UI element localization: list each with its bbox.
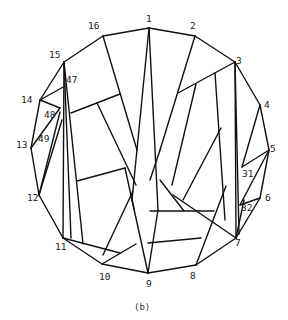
node-label-2: 2	[190, 20, 196, 31]
diagram-edge	[148, 265, 196, 273]
diagram-edge	[215, 73, 225, 220]
node-label-7: 7	[235, 237, 241, 248]
diagram-edge	[103, 36, 137, 150]
node-label-6: 6	[265, 192, 271, 203]
node-label-14: 14	[21, 94, 33, 105]
diagram-edge	[132, 200, 148, 273]
diagram-edge	[149, 28, 158, 210]
diagram-edge	[195, 36, 235, 62]
diagram-edges	[31, 28, 269, 273]
diagram-edge	[64, 36, 103, 62]
diagram-edge	[103, 191, 133, 255]
diagram-edge	[31, 148, 39, 195]
diagram-edge	[183, 128, 221, 200]
node-label-10: 10	[99, 271, 111, 282]
node-label-32: 32	[241, 202, 252, 213]
diagram-edge	[149, 28, 195, 36]
node-label-12: 12	[27, 192, 38, 203]
diagram-edge	[77, 168, 125, 181]
node-label-16: 16	[88, 20, 100, 31]
node-label-11: 11	[55, 241, 67, 252]
diagram-edge	[63, 62, 64, 238]
diagram-edge	[40, 62, 64, 100]
diagram-edge	[64, 62, 71, 238]
node-label-49: 49	[38, 133, 50, 144]
diagram-edge	[178, 62, 235, 93]
diagram-edge	[103, 28, 149, 36]
node-label-4: 4	[264, 99, 270, 110]
polygon-triangulation-diagram: 123456789101112131415164748493132 (b)	[0, 0, 288, 320]
node-label-3: 3	[236, 55, 242, 66]
node-label-48: 48	[44, 109, 56, 120]
diagram-edge	[173, 195, 236, 238]
diagram-edge	[63, 238, 120, 253]
node-label-9: 9	[146, 278, 152, 289]
node-label-5: 5	[270, 143, 276, 154]
diagram-edge	[39, 195, 63, 238]
node-label-8: 8	[190, 270, 196, 281]
diagram-edge	[235, 62, 260, 105]
diagram-edge	[132, 28, 149, 200]
diagram-edge	[148, 238, 201, 243]
diagram-edge	[71, 94, 120, 113]
diagram-edge	[40, 100, 60, 108]
diagram-edge	[196, 238, 236, 265]
figure-caption: (b)	[134, 302, 150, 312]
diagram-edge	[260, 105, 269, 150]
node-label-31: 31	[242, 168, 254, 179]
diagram-edge	[64, 62, 83, 244]
node-label-15: 15	[49, 49, 60, 60]
diagram-edge	[97, 103, 136, 185]
node-label-1: 1	[146, 13, 152, 24]
diagram-edge	[196, 186, 226, 265]
node-label-47: 47	[66, 74, 77, 85]
node-label-13: 13	[16, 139, 27, 150]
